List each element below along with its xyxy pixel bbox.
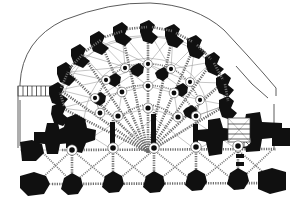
boss [173, 112, 183, 122]
boss [196, 96, 205, 105]
right-stair-hatch [228, 118, 250, 142]
boss [233, 141, 243, 151]
boss [191, 142, 201, 152]
boss [149, 143, 159, 153]
boss [95, 108, 105, 118]
boss [144, 60, 153, 69]
boss [121, 64, 130, 73]
boss [117, 87, 127, 97]
boss [167, 65, 176, 74]
boss [169, 88, 179, 98]
boss [91, 94, 100, 103]
boss [67, 145, 77, 155]
boss [186, 78, 195, 87]
architectural-plan-canvas [0, 0, 290, 212]
boss [191, 111, 201, 121]
boss [143, 103, 153, 113]
boss [102, 76, 111, 85]
boss [108, 143, 118, 153]
chevet-plan-drawing [0, 0, 290, 212]
boss [113, 111, 123, 121]
boss [143, 81, 153, 91]
